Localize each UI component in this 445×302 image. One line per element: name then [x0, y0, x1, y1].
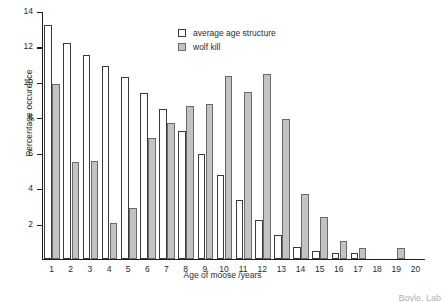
- bar-average-age-3: [83, 55, 91, 259]
- bar-wolf-kill-age-2: [72, 162, 80, 259]
- legend-item-wolf-kill: wolf kill: [178, 42, 276, 52]
- bar-average-age-1: [44, 25, 52, 259]
- bar-average-age-12: [255, 220, 263, 259]
- y-tick-label-12: 12: [24, 41, 33, 51]
- bar-wolf-kill-age-5: [129, 208, 137, 259]
- bar-wolf-kill-age-8: [186, 106, 194, 259]
- legend-label-wolf-kill: wolf kill: [193, 42, 220, 52]
- x-axis-title: Age of moose /years: [0, 270, 445, 280]
- bar-wolf-kill-age-4: [110, 223, 118, 259]
- bar-wolf-kill-age-14: [301, 194, 309, 259]
- bar-group-age-20: [407, 12, 426, 259]
- bar-wolf-kill-age-15: [320, 217, 328, 259]
- bar-group-age-7: [158, 12, 177, 259]
- legend-swatch-icon-average: [178, 29, 186, 37]
- bar-average-age-17: [351, 253, 359, 259]
- bar-average-age-9: [198, 154, 206, 259]
- bar-wolf-kill-age-10: [225, 76, 233, 259]
- bar-average-age-11: [236, 200, 244, 259]
- bar-group-age-3: [81, 12, 100, 259]
- bar-wolf-kill-age-6: [148, 138, 156, 259]
- y-tick-label-8: 8: [28, 112, 33, 122]
- caption-fragment: Boyle, Lab: [398, 293, 441, 302]
- bar-average-age-2: [63, 43, 71, 259]
- bar-group-age-18: [369, 12, 388, 259]
- legend-item-average-age-structure: average age structure: [178, 28, 276, 38]
- bar-wolf-kill-age-3: [91, 161, 99, 259]
- bar-group-age-2: [62, 12, 81, 259]
- bar-wolf-kill-age-9: [206, 104, 214, 259]
- bar-average-age-7: [159, 109, 167, 259]
- bar-average-age-10: [217, 175, 225, 259]
- bar-average-age-15: [312, 251, 320, 259]
- bar-group-age-17: [349, 12, 368, 259]
- y-tick-label-4: 4: [28, 183, 33, 193]
- y-tick-label-10: 10: [24, 77, 33, 87]
- bar-wolf-kill-age-11: [244, 92, 252, 259]
- bar-average-age-13: [274, 235, 282, 259]
- bar-wolf-kill-age-19: [397, 248, 405, 259]
- bar-average-age-4: [102, 66, 110, 259]
- bar-average-age-14: [293, 247, 301, 259]
- bar-average-age-8: [178, 131, 186, 259]
- bar-wolf-kill-age-17: [359, 248, 367, 259]
- legend-swatch-icon-wolf-kill: [178, 43, 186, 51]
- bar-average-age-16: [332, 253, 340, 259]
- bar-group-age-1: [43, 12, 62, 259]
- y-tick-label-2: 2: [28, 219, 33, 229]
- bar-group-age-14: [292, 12, 311, 259]
- bar-average-age-5: [121, 77, 129, 259]
- bar-wolf-kill-age-16: [340, 241, 348, 259]
- bar-group-age-6: [139, 12, 158, 259]
- bar-average-age-6: [140, 93, 148, 260]
- bar-wolf-kill-age-7: [167, 123, 175, 259]
- chart-legend: average age structure wolf kill: [178, 28, 276, 56]
- bar-group-age-4: [100, 12, 119, 259]
- bar-group-age-15: [311, 12, 330, 259]
- y-tick-label-6: 6: [28, 148, 33, 158]
- y-tick-label-14: 14: [24, 6, 33, 16]
- bar-group-age-16: [330, 12, 349, 259]
- bar-group-age-5: [120, 12, 139, 259]
- bar-wolf-kill-age-12: [263, 74, 271, 259]
- bar-group-age-19: [388, 12, 407, 259]
- bar-wolf-kill-age-13: [282, 119, 290, 259]
- legend-label-average: average age structure: [193, 28, 276, 38]
- bar-wolf-kill-age-1: [52, 84, 60, 259]
